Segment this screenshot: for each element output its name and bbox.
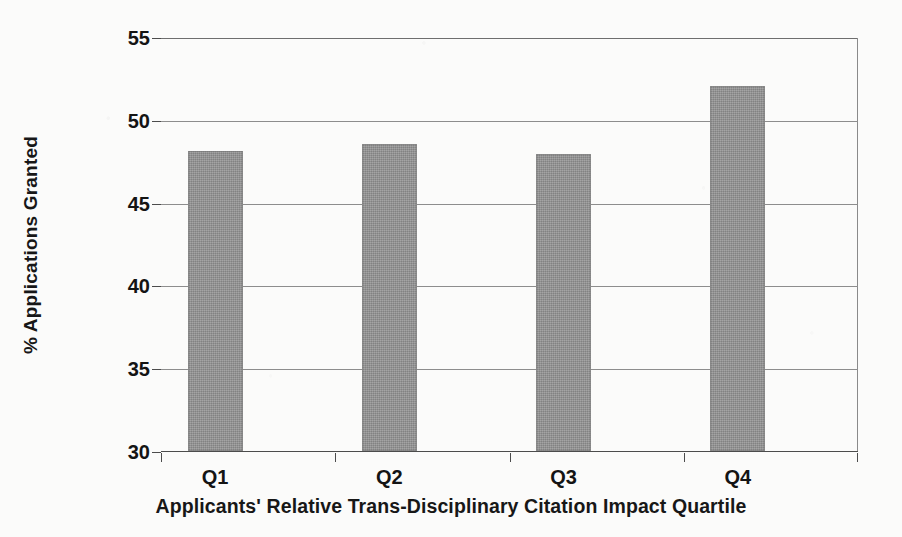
plot-border-right [857,38,858,452]
y-tick-mark-30 [152,452,161,453]
y-tick-label-50: 50 [92,111,150,131]
y-tick-mark-40 [152,286,161,287]
plot-area [161,38,858,452]
y-tick-label-45: 45 [92,194,150,214]
bar-Q4 [710,86,765,451]
x-tick-mark-2 [510,453,511,462]
x-axis-line [161,451,858,452]
x-tick-mark-1 [335,453,336,462]
y-tick-label-55: 55 [92,28,150,48]
plot-border-top [161,38,858,39]
x-tick-mark-3 [684,453,685,462]
x-tick-mark-4 [857,453,858,462]
x-tick-label-Q4: Q4 [678,466,798,489]
x-tick-label-Q1: Q1 [155,466,275,489]
bar-Q2 [362,144,417,451]
y-tick-label-30: 30 [92,442,150,462]
y-tick-label-35: 35 [92,359,150,379]
y-tick-mark-55 [152,38,161,39]
y-axis-title: % Applications Granted [14,38,48,452]
x-axis-title: Applicants' Relative Trans-Disciplinary … [0,495,902,518]
x-tick-label-Q2: Q2 [329,466,449,489]
x-tick-mark-0 [161,453,162,462]
y-tick-mark-35 [152,369,161,370]
bar-chart-figure: % Applications Granted 303540455055 Q1Q2… [0,0,902,537]
y-axis-tick-labels: 303540455055 [92,0,150,537]
y-tick-mark-45 [152,204,161,205]
x-tick-label-Q3: Q3 [504,466,624,489]
y-tick-label-40: 40 [92,276,150,296]
bar-Q1 [188,151,243,451]
bar-Q3 [536,154,591,451]
y-tick-mark-50 [152,121,161,122]
